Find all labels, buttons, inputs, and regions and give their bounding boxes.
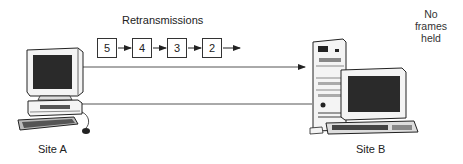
site-b-label: Site B [356,143,385,155]
frame-box-5: 5 [97,38,117,58]
frame-box-4: 4 [132,38,152,58]
diagram-title: Retransmissions [122,14,203,26]
diagram-canvas [0,0,463,164]
site-a-label: Site A [38,143,67,155]
frame-box-2: 2 [202,38,222,58]
site-a-computer-icon [18,48,90,134]
note-line-1: No [414,8,448,20]
note-line-3: held [414,32,448,44]
site-b-computer-icon [310,39,418,134]
frame-box-3: 3 [167,38,187,58]
note-line-2: frames [414,20,448,32]
no-frames-held-note: No frames held [414,8,448,44]
link-lines [80,67,312,104]
